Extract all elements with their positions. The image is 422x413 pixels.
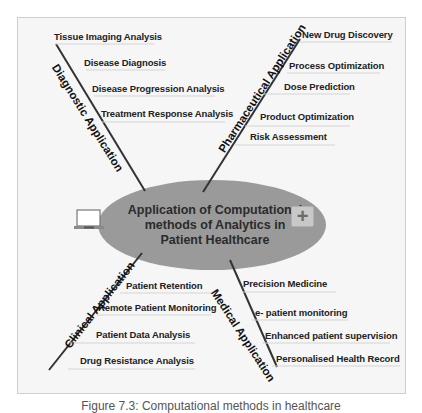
center-title-line-3: Patient Healthcare — [120, 233, 310, 248]
pharma-item-process-optimization: Process Optimization — [289, 60, 384, 71]
laptop-icon — [74, 209, 104, 231]
diagnostic-item-disease-diagnosis: Disease Diagnosis — [84, 57, 166, 68]
medical-item-enhanced-supervision: Enhanced patient supervision — [265, 330, 397, 341]
center-title-line-1: Application of Computational — [120, 203, 310, 218]
medical-item-health-record: Personalised Health Record — [276, 353, 400, 364]
clinical-item-drug-resistance: Drug Resistance Analysis — [80, 355, 194, 366]
medical-item-e-patient-monitoring: e- patient monitoring — [255, 307, 347, 318]
clinical-item-remote-monitoring: Remote Patient Monitoring — [98, 302, 216, 313]
figure-caption: Figure 7.3: Computational methods in hea… — [0, 399, 422, 413]
pharma-item-risk-assessment: Risk Assessment — [250, 131, 327, 142]
diagnostic-item-tissue-imaging: Tissue Imaging Analysis — [54, 31, 162, 42]
plus-icon: + — [291, 206, 314, 227]
pharma-item-product-optimization: Product Optimization — [260, 111, 354, 122]
diagnostic-item-treatment-response: Treatment Response Analysis — [101, 108, 233, 119]
center-title-line-2: methods of Analytics in — [120, 218, 310, 233]
medical-item-precision-medicine: Precision Medicine — [243, 278, 327, 289]
diagnostic-item-progression: Disease Progression Analysis — [92, 83, 225, 94]
clinical-item-patient-retention: Patient Retention — [126, 280, 202, 291]
clinical-item-patient-data: Patient Data Analysis — [96, 329, 190, 340]
center-title: Application of Computational methods of … — [120, 203, 310, 248]
pharma-item-dose-prediction: Dose Prediction — [284, 81, 355, 92]
pharma-item-drug-discovery: New Drug Discovery — [302, 29, 393, 40]
